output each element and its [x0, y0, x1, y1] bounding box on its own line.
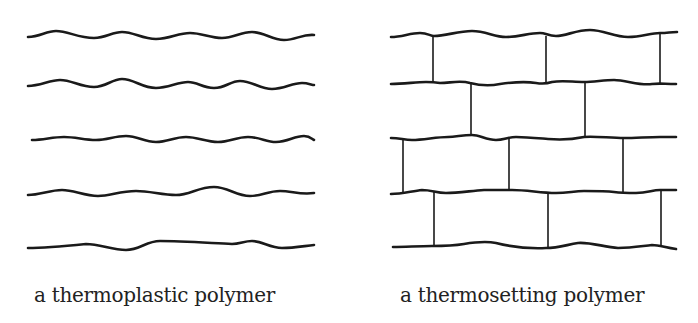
polymer-chain: [28, 241, 314, 250]
polymer-structure-diagram: [0, 0, 698, 323]
polymer-chain: [28, 79, 314, 89]
thermoplastic-panel: [28, 31, 314, 250]
polymer-chain: [28, 31, 314, 40]
polymer-chain: [391, 30, 677, 37]
thermoplastic-caption: a thermoplastic polymer: [34, 283, 275, 307]
polymer-chain: [28, 187, 314, 196]
polymer-chain: [393, 242, 676, 249]
polymer-chain: [391, 135, 676, 140]
polymer-chain: [32, 136, 314, 142]
thermosetting-panel: [391, 30, 677, 249]
thermosetting-caption: a thermosetting polymer: [400, 283, 644, 307]
